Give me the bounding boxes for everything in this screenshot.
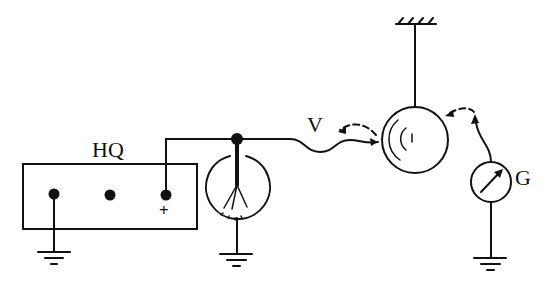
arrowhead-icon: [445, 110, 454, 117]
label-v: V: [307, 112, 323, 137]
suspended-sphere: [382, 107, 448, 173]
wire-g: [476, 122, 491, 162]
arrowhead-icon: [370, 138, 378, 146]
hq-terminals: [49, 189, 172, 201]
label-plus: +: [159, 201, 169, 220]
ground-icon: [474, 202, 506, 270]
motion-arrow-right: [450, 108, 474, 113]
galvanometer: [471, 162, 511, 202]
terminal-middle-dot: [105, 190, 116, 201]
label-hq: HQ: [92, 137, 124, 162]
ground-icon: [220, 218, 252, 266]
label-g: G: [515, 165, 531, 190]
electroscope: [206, 139, 270, 220]
arrowhead-icon: [471, 114, 479, 124]
ceiling-support-icon: [396, 18, 436, 107]
diagram-canvas: HQ V G +: [0, 0, 551, 291]
wire-hq-to-junction: [166, 139, 237, 195]
wire-v: [237, 139, 378, 152]
